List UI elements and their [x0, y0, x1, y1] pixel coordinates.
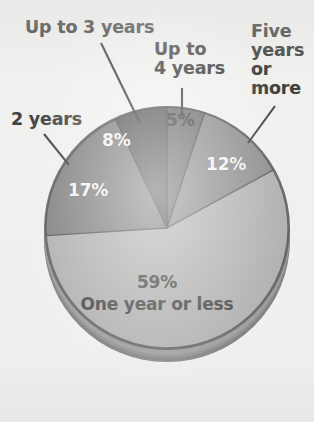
callout-line-up-to-3-years: [101, 43, 140, 123]
slice-value-one-year-or-less: 59% One year or less: [0, 272, 314, 316]
slice-label-up-to-3-years: Up to 3 years: [25, 18, 154, 37]
slice-label-2-years: 2 years: [11, 110, 82, 129]
callout-line-2-years: [44, 134, 69, 165]
slice-value-up-to-3-years: 8%: [102, 130, 130, 150]
slice-label-up-to-4-years: Up to 4 years: [154, 40, 225, 78]
slice-value-up-to-4-years: 5%: [166, 110, 194, 130]
slice-value-2-years: 17%: [68, 180, 108, 200]
callout-line-five-years-or-more: [248, 106, 275, 143]
pie-chart-figure: Up to 3 years Up to 4 years Five years o…: [0, 0, 314, 422]
slice-value-five-years-or-more: 12%: [206, 154, 246, 174]
slice-label-five-years-or-more: Five years or more: [251, 22, 304, 98]
